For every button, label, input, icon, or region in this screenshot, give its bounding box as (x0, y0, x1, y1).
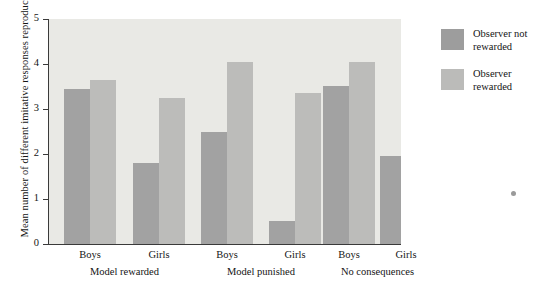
bar (323, 86, 349, 244)
bar (295, 93, 321, 244)
plot-area (49, 19, 401, 244)
x-tick-label: Boys (50, 249, 130, 260)
y-tick-label: 5 (25, 13, 39, 24)
y-tick-mark (43, 244, 49, 245)
bar (159, 98, 185, 244)
bar (201, 132, 227, 245)
x-group-label: Model rewarded (55, 266, 195, 277)
y-tick-label: 0 (25, 238, 39, 249)
bar (64, 89, 90, 244)
legend-item-observer-not-rewarded: Observer notrewarded (441, 28, 541, 54)
x-group-label: No consequences (308, 266, 448, 277)
y-tick-label: 3 (25, 103, 39, 114)
bar (349, 62, 375, 244)
bar (227, 62, 253, 244)
x-tick-label: Girls (366, 249, 446, 260)
legend-item-observer-rewarded: Observerrewarded (441, 68, 541, 94)
x-axis-line (48, 244, 401, 245)
legend-label: Observerrewarded (473, 68, 541, 93)
image-speck-artifact (511, 191, 516, 196)
bar (133, 163, 159, 244)
legend-swatch-icon (441, 29, 464, 50)
legend-label: Observer notrewarded (473, 28, 541, 53)
bar (90, 80, 116, 244)
bar (380, 156, 401, 244)
bar (269, 221, 295, 244)
y-tick-label: 2 (25, 148, 39, 159)
y-tick-label: 4 (25, 58, 39, 69)
legend-swatch-icon (441, 69, 464, 90)
y-tick-label: 1 (25, 193, 39, 204)
bar-chart: Mean number of different imitative respo… (0, 0, 543, 289)
legend: Observer notrewarded Observerrewarded (441, 28, 541, 108)
